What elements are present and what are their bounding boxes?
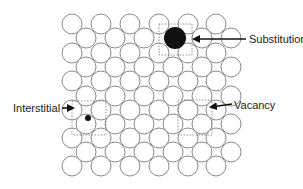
lattice-atom	[62, 71, 82, 91]
lattice-diagram: Substitution Interstitial Vacancy	[0, 0, 303, 189]
lattice-atom	[178, 71, 198, 91]
lattice-atom	[221, 114, 241, 134]
lattice-atom	[149, 71, 169, 91]
lattice-atom	[192, 28, 212, 48]
lattice-atom	[221, 57, 241, 77]
vacancy-label: Vacancy	[234, 99, 275, 111]
lattice-atom	[120, 71, 140, 91]
interstitial-label: Interstitial	[13, 102, 60, 114]
lattice-atom	[62, 156, 82, 176]
lattice-atom	[76, 28, 96, 48]
lattice-atom	[206, 71, 226, 91]
lattice-atom	[120, 156, 140, 176]
lattice-atom	[134, 28, 154, 48]
lattice-svg	[0, 0, 303, 189]
lattice-atom	[221, 142, 241, 162]
interstitial-atom	[85, 115, 91, 121]
lattice-atom	[91, 71, 111, 91]
lattice-atom	[221, 28, 241, 48]
lattice-atom	[91, 156, 111, 176]
substitution-atom	[164, 27, 186, 49]
lattice-atom	[105, 28, 125, 48]
substitution-label: Substitution	[249, 33, 303, 45]
lattice-atom	[206, 156, 226, 176]
lattice-atom	[149, 156, 169, 176]
lattice-atom	[178, 156, 198, 176]
